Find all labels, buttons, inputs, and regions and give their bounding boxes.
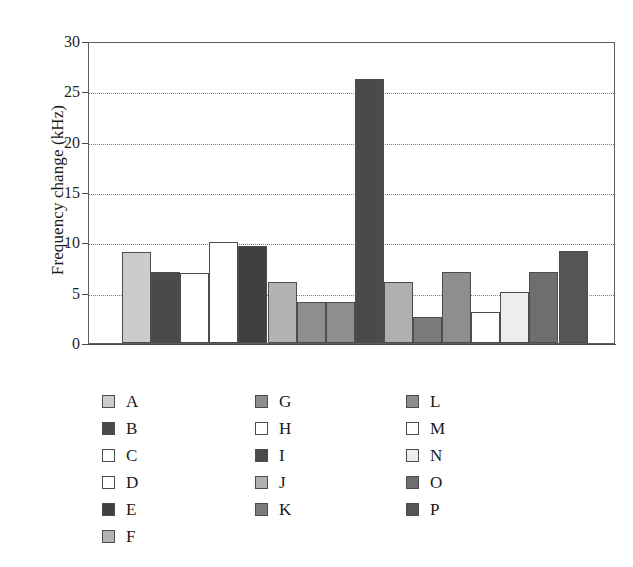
bar-chart-figure: 302520151050 Frequency change (kHz) ABCD… <box>0 0 633 567</box>
y-axis-tick <box>82 143 88 144</box>
legend-label: E <box>126 501 136 518</box>
legend-item-i: I <box>255 442 405 469</box>
legend-item-c: C <box>102 442 252 469</box>
legend-label: O <box>430 474 442 491</box>
legend-label: P <box>430 501 439 518</box>
legend-label: M <box>430 420 445 437</box>
legend-item-d: D <box>102 469 252 496</box>
bar-p <box>559 251 588 343</box>
legend-item-h: H <box>255 415 405 442</box>
bar-e <box>238 246 267 343</box>
legend-item-k: K <box>255 496 405 523</box>
legend-item-j: J <box>255 469 405 496</box>
legend-swatch-icon <box>102 503 115 516</box>
bar-series <box>89 43 614 343</box>
legend-item-b: B <box>102 415 252 442</box>
legend-label: J <box>279 474 286 491</box>
legend-column-2: GHIJK <box>255 388 405 523</box>
bar-o <box>529 272 558 343</box>
y-axis-title: Frequency change (kHz) <box>48 40 68 340</box>
legend-swatch-icon <box>406 476 419 489</box>
chart-legend: ABCDEF GHIJK LMNOP <box>88 388 548 558</box>
bar-l <box>442 272 471 343</box>
legend-item-m: M <box>406 415 556 442</box>
legend-label: A <box>126 393 138 410</box>
legend-label: G <box>279 393 291 410</box>
legend-column-3: LMNOP <box>406 388 556 523</box>
y-axis-tick <box>82 193 88 194</box>
legend-swatch-icon <box>255 476 268 489</box>
legend-swatch-icon <box>102 395 115 408</box>
legend-swatch-icon <box>406 395 419 408</box>
legend-label: C <box>126 447 137 464</box>
bar-a <box>122 252 151 343</box>
bar-k <box>413 317 442 343</box>
legend-swatch-icon <box>406 449 419 462</box>
plot-area <box>88 42 615 344</box>
legend-item-o: O <box>406 469 556 496</box>
y-axis-tick <box>82 344 88 345</box>
legend-label: H <box>279 420 291 437</box>
legend-swatch-icon <box>255 395 268 408</box>
legend-label: N <box>430 447 442 464</box>
legend-label: K <box>279 501 291 518</box>
legend-label: I <box>279 447 285 464</box>
legend-swatch-icon <box>406 503 419 516</box>
x-axis-line <box>88 344 616 345</box>
y-axis-tick <box>82 42 88 43</box>
legend-item-a: A <box>102 388 252 415</box>
bar-d <box>209 242 238 343</box>
legend-label: D <box>126 474 138 491</box>
legend-swatch-icon <box>255 503 268 516</box>
legend-label: F <box>126 528 135 545</box>
legend-swatch-icon <box>102 449 115 462</box>
legend-label: L <box>430 393 440 410</box>
legend-swatch-icon <box>406 422 419 435</box>
legend-item-e: E <box>102 496 252 523</box>
legend-item-n: N <box>406 442 556 469</box>
bar-h <box>326 302 355 343</box>
y-axis-tick <box>82 92 88 93</box>
bar-n <box>500 292 529 343</box>
legend-item-g: G <box>255 388 405 415</box>
bar-f <box>268 282 297 343</box>
legend-swatch-icon <box>102 476 115 489</box>
legend-swatch-icon <box>102 422 115 435</box>
bar-m <box>471 312 500 343</box>
legend-label: B <box>126 420 137 437</box>
legend-swatch-icon <box>255 449 268 462</box>
bar-c <box>180 273 209 343</box>
legend-item-l: L <box>406 388 556 415</box>
bar-j <box>384 282 413 343</box>
legend-swatch-icon <box>255 422 268 435</box>
legend-column-1: ABCDEF <box>102 388 252 550</box>
legend-item-f: F <box>102 523 252 550</box>
y-axis-tick <box>82 243 88 244</box>
bar-b <box>151 272 180 343</box>
legend-item-p: P <box>406 496 556 523</box>
y-axis-tick <box>82 294 88 295</box>
bar-i <box>355 79 384 343</box>
legend-swatch-icon <box>102 530 115 543</box>
bar-g <box>297 302 326 343</box>
